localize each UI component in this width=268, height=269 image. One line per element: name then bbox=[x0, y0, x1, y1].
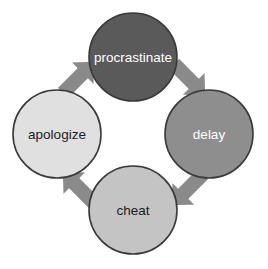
cycle-diagram: procrastinate delay cheat apologize bbox=[0, 0, 268, 269]
node-delay-label: delay bbox=[193, 127, 226, 142]
node-cheat: cheat bbox=[89, 166, 177, 254]
node-apologize: apologize bbox=[13, 90, 101, 178]
node-procrastinate-label: procrastinate bbox=[94, 50, 172, 65]
node-cheat-label: cheat bbox=[116, 203, 149, 218]
node-delay: delay bbox=[165, 90, 253, 178]
node-procrastinate: procrastinate bbox=[89, 13, 177, 101]
node-apologize-label: apologize bbox=[28, 127, 86, 142]
